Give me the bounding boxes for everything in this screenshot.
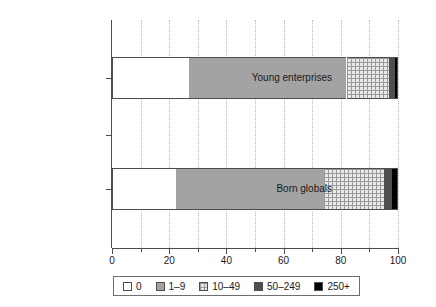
bar-segment-50-249 [384,168,393,210]
gridline-30 [198,20,199,248]
legend-label-0: 0 [136,281,142,292]
legend-item-0: 0 [123,281,142,292]
legend-label-250plus: 250+ [327,281,350,292]
y-axis [111,20,112,248]
gridline-90 [369,20,370,248]
gridline-40 [226,20,227,248]
gridline-60 [284,20,285,248]
x-tick-40 [226,249,227,254]
x-tick-label-60: 60 [264,255,304,267]
x-tick-0 [112,249,113,254]
x-tick-label-0: 0 [92,255,132,267]
chart-legend: 0 1–9 10–49 50–249 250+ [113,276,360,296]
x-tick-30 [198,249,199,252]
legend-swatch-icon-10-49 [199,282,208,291]
legend-item-1-9: 1–9 [156,281,186,292]
legend-swatch-icon-1-9 [156,282,165,291]
x-tick-70 [312,249,313,252]
legend-label-50-249: 50–249 [267,281,300,292]
x-tick-100 [398,249,399,254]
y-tick-young-enterprises [106,78,111,79]
gridline-80 [341,20,342,248]
bar-segment-10-49 [324,168,384,210]
gridline-20 [169,20,170,248]
x-tick-80 [341,249,342,254]
bar-segment-250plus [395,57,398,99]
gridline-100 [398,20,399,248]
x-tick-10 [141,249,142,252]
gridline-50 [255,20,256,248]
legend-label-1-9: 1–9 [169,281,186,292]
legend-swatch-icon-250plus [314,282,323,291]
gridline-10 [141,20,142,248]
category-label-young-enterprises: Young enterprises [252,72,332,84]
x-tick-90 [369,249,370,252]
legend-swatch-icon-0 [123,282,132,291]
bar-segment-0 [112,168,176,210]
x-tick-label-100: 100 [378,255,418,267]
bar-segment-250plus [392,168,398,210]
category-label-born-globals: Born globals [276,183,332,195]
gridline-70 [312,20,313,248]
bar-segment-0 [112,57,189,99]
x-tick-label-80: 80 [321,255,361,267]
x-tick-50 [255,249,256,252]
legend-item-50-249: 50–249 [254,281,300,292]
x-tick-60 [284,249,285,254]
y-tick-born-globals [106,189,111,190]
y-tick-middle [106,135,111,136]
legend-label-10-49: 10–49 [212,281,240,292]
stacked-bar-chart: Young enterprises Born globals 0 20 40 6… [0,0,436,307]
x-tick-20 [169,249,170,254]
legend-item-250plus: 250+ [314,281,350,292]
plot-area [112,20,398,248]
x-tick-label-20: 20 [149,255,189,267]
bar-segment-10-49 [347,57,390,99]
legend-swatch-icon-50-249 [254,282,263,291]
x-tick-label-40: 40 [206,255,246,267]
legend-item-10-49: 10–49 [199,281,240,292]
